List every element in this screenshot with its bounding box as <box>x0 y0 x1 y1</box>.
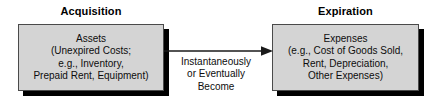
heading-expiration: Expiration <box>272 5 419 17</box>
assets-line-4: Prepaid Rent, Equipment) <box>33 70 148 82</box>
assets-line-2: (Unexpired Costs; <box>51 45 131 57</box>
expenses-line-3: Rent, Depreciation, <box>303 58 389 70</box>
expenses-line-2: (e.g., Cost of Goods Sold, <box>288 45 403 57</box>
arrow-caption-line-1: Instantaneously <box>160 56 272 68</box>
arrow-caption-line-2: or Eventually <box>160 68 272 80</box>
expenses-box-body: Expenses (e.g., Cost of Goods Sold, Rent… <box>272 24 419 91</box>
expenses-box: Expenses (e.g., Cost of Goods Sold, Rent… <box>272 24 419 91</box>
expenses-line-1: Expenses <box>324 33 368 45</box>
assets-line-1: Assets <box>76 33 106 45</box>
assets-line-3: e.g., Inventory, <box>58 58 123 70</box>
assets-box-body: Assets (Unexpired Costs; e.g., Inventory… <box>18 24 164 91</box>
assets-box: Assets (Unexpired Costs; e.g., Inventory… <box>18 24 164 91</box>
arrow-caption-line-3: Become <box>160 81 272 93</box>
acquisition-expiration-diagram: Acquisition Expiration Assets (Unexpired… <box>0 0 435 110</box>
expenses-line-4: Other Expenses) <box>308 70 383 82</box>
arrow-caption: Instantaneously or Eventually Become <box>160 56 272 93</box>
heading-acquisition: Acquisition <box>18 5 164 17</box>
